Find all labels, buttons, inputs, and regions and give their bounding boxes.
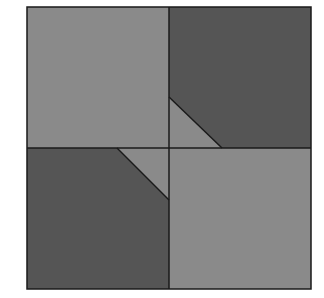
quadrant-square-diagram <box>0 0 324 298</box>
quadrant-top-left <box>27 7 169 148</box>
quadrant-bottom-right <box>169 148 311 289</box>
